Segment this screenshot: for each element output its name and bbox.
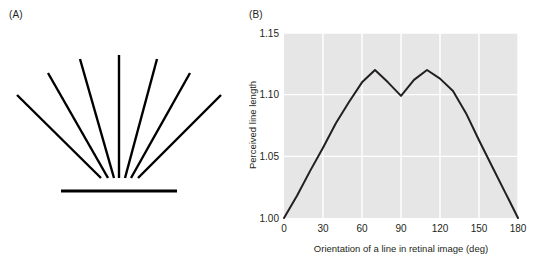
x-tick-label-2: 60 — [356, 223, 368, 234]
panel-b: 0306090120150180 1.001.051.101.15 Orient… — [245, 0, 537, 261]
x-axis-title: Orientation of a line in retinal image (… — [314, 243, 488, 254]
fan-ray-6 — [138, 95, 221, 178]
panel-b-label: (B) — [249, 9, 263, 20]
panel-a-label: (A) — [9, 9, 23, 20]
y-tick-labels: 1.001.051.101.15 — [260, 28, 280, 224]
x-tick-label-0: 0 — [281, 223, 287, 234]
fan-ray-0 — [17, 95, 101, 178]
x-tick-label-3: 90 — [395, 223, 407, 234]
panel-a: (A) — [0, 0, 245, 261]
figure-container: (A) 0306090120150180 1.001.051.101.15 Or… — [0, 0, 537, 261]
x-tick-labels: 0306090120150180 — [281, 223, 527, 234]
y-tick-label-1: 1.05 — [260, 151, 280, 162]
y-tick-label-2: 1.10 — [260, 89, 280, 100]
y-tick-label-0: 1.00 — [260, 213, 280, 224]
line-chart: 0306090120150180 1.001.051.101.15 Orient… — [245, 0, 537, 261]
fan-diagram — [0, 0, 245, 261]
x-tick-label-6: 180 — [510, 223, 527, 234]
x-tick-label-4: 120 — [432, 223, 449, 234]
x-tick-label-1: 30 — [317, 223, 329, 234]
y-tick-label-3: 1.15 — [260, 28, 280, 39]
y-axis-title: Perceived line length — [247, 81, 258, 169]
x-tick-label-5: 150 — [471, 223, 488, 234]
